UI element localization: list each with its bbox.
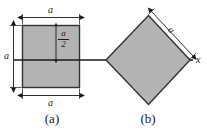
panel-b-graphics — [106, 9, 196, 105]
caption-panel-a: (a) — [32, 112, 72, 125]
panel-a-graphics — [10, 14, 80, 99]
label-bottom-width-a: a — [48, 98, 53, 108]
fraction-denominator: 2 — [58, 40, 69, 49]
fraction-numerator: a — [58, 29, 69, 38]
square-shape — [23, 26, 80, 88]
diamond-shape — [106, 16, 190, 105]
label-top-width-a: a — [48, 5, 53, 15]
figure-container: a a a a 2 a x (a) (b) — [0, 0, 207, 136]
label-axis-x: x — [196, 55, 200, 65]
caption-panel-b: (b) — [128, 112, 168, 125]
label-left-height-a: a — [4, 51, 9, 61]
label-inner-half-a-over-2: a 2 — [58, 29, 69, 50]
